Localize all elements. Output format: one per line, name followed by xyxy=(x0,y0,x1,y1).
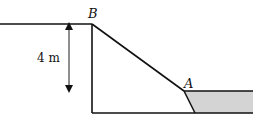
slope-line-b-to-a xyxy=(92,24,184,91)
diagram-svg: B A 4 m xyxy=(0,0,269,125)
point-b-label: B xyxy=(87,6,98,21)
dam-diagram: B A 4 m xyxy=(0,0,269,125)
height-dimension-label: 4 m xyxy=(37,51,60,65)
shaded-water-region xyxy=(184,91,253,113)
point-a-label: A xyxy=(183,76,193,91)
